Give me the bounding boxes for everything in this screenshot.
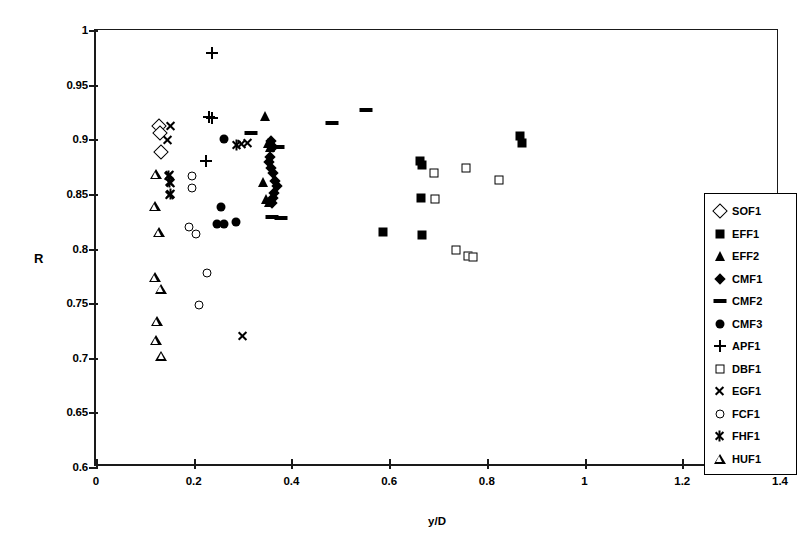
y-tick-label: 0.95 <box>66 79 88 91</box>
chart-root: R y/D 0.60.650.70.750.80.850.90.951 00.2… <box>0 0 798 556</box>
marker-triangle-open <box>153 227 165 237</box>
legend-symbol-diamond-open-icon <box>712 204 727 219</box>
marker-triangle-open <box>150 169 162 179</box>
legend-label: HUF1 <box>732 453 761 465</box>
y-axis-title: R <box>34 251 43 266</box>
legend-symbol-star6-icon <box>712 429 727 444</box>
legend-item-sof1[interactable]: SOF1 <box>705 200 796 223</box>
legend-symbol-diamond-filled-icon <box>712 271 727 286</box>
y-tick-label: 0.85 <box>66 188 88 200</box>
legend-symbol-square-filled-icon <box>712 226 727 241</box>
legend-item-fcf1[interactable]: FCF1 <box>705 403 796 426</box>
marker-plus <box>714 340 726 352</box>
marker-circle-open <box>715 409 724 418</box>
legend-symbol-triangle-filled-icon <box>712 249 727 264</box>
legend-symbol-circle-filled-icon <box>712 316 727 331</box>
x-tick-label: 0.4 <box>283 475 299 487</box>
marker-square-open <box>715 364 724 373</box>
legend-item-apf1[interactable]: APF1 <box>705 335 796 358</box>
x-tick-label: 0 <box>93 475 99 487</box>
x-tick-label: 1.4 <box>772 475 788 487</box>
legend-label: FHF1 <box>732 430 760 442</box>
marker-triangle-open <box>714 454 726 464</box>
legend-item-eff2[interactable]: EFF2 <box>705 245 796 268</box>
legend-label: DBF1 <box>732 363 761 375</box>
legend-item-cmf1[interactable]: CMF1 <box>705 268 796 291</box>
legend-label: CMF2 <box>732 295 762 307</box>
marker-triangle-open <box>155 284 167 294</box>
plot-data-area <box>96 30 777 464</box>
legend-label: SOF1 <box>732 205 761 217</box>
legend-label: APF1 <box>732 340 761 352</box>
marker-dash <box>713 299 726 303</box>
legend-symbol-cross-icon <box>712 384 727 399</box>
marker-diamond-open <box>712 203 728 219</box>
marker-triangle-open <box>150 335 162 345</box>
y-tick-label: 0.65 <box>66 406 88 418</box>
legend-label: FCF1 <box>732 408 760 420</box>
legend-item-huf1[interactable]: HUF1 <box>705 448 796 471</box>
x-tick-label: 0.2 <box>186 475 202 487</box>
plot-frame: 0.60.650.70.750.80.850.90.951 00.20.40.6… <box>94 29 778 466</box>
y-tick-label: 0.75 <box>66 297 88 309</box>
legend-symbol-circle-open-icon <box>712 406 727 421</box>
legend-label: CMF1 <box>732 273 762 285</box>
x-tick-label: 1 <box>581 475 587 487</box>
y-tick-label: 1 <box>82 24 88 36</box>
y-tick-label: 0.7 <box>73 352 88 364</box>
marker-diamond-filled <box>714 273 725 284</box>
marker-square-filled <box>715 229 724 238</box>
y-tick-label: 0.8 <box>73 243 88 255</box>
x-axis-title: y/D <box>428 515 446 527</box>
marker-cross <box>714 386 725 397</box>
legend-item-egf1[interactable]: EGF1 <box>705 380 796 403</box>
legend-symbol-plus-icon <box>712 339 727 354</box>
legend-label: EFF2 <box>732 250 759 262</box>
marker-triangle-open <box>151 316 163 326</box>
marker-triangle-open <box>155 351 167 361</box>
marker-triangle-open <box>149 201 161 211</box>
y-tick-label: 0.6 <box>73 461 88 473</box>
legend-item-cmf2[interactable]: CMF2 <box>705 290 796 313</box>
x-tick-label: 0.8 <box>479 475 495 487</box>
marker-circle-filled <box>715 319 724 328</box>
legend-item-fhf1[interactable]: FHF1 <box>705 425 796 448</box>
legend-symbol-triangle-open-icon <box>712 451 727 466</box>
legend-item-dbf1[interactable]: DBF1 <box>705 358 796 381</box>
marker-triangle-filled <box>715 251 725 261</box>
x-tick-label: 1.2 <box>674 475 690 487</box>
marker-triangle-open <box>149 272 161 282</box>
y-tick-label: 0.9 <box>73 133 88 145</box>
marker-star6 <box>714 431 725 442</box>
legend-symbol-square-open-icon <box>712 361 727 376</box>
legend-symbol-dash-icon <box>712 294 727 309</box>
series-huf1 <box>96 30 777 464</box>
legend-item-cmf3[interactable]: CMF3 <box>705 313 796 336</box>
legend: SOF1EFF1EFF2CMF1CMF2CMF3APF1DBF1EGF1FCF1… <box>704 193 797 475</box>
x-tick-label: 0.6 <box>381 475 397 487</box>
legend-label: EGF1 <box>732 385 761 397</box>
legend-label: EFF1 <box>732 228 759 240</box>
legend-label: CMF3 <box>732 318 762 330</box>
legend-item-eff1[interactable]: EFF1 <box>705 223 796 246</box>
